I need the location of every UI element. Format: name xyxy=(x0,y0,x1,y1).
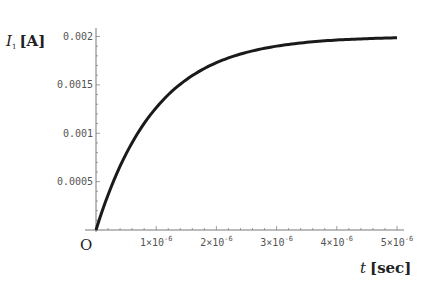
data-curve xyxy=(96,38,397,230)
y-tick-label: 0.0005 xyxy=(57,176,93,187)
x-tick-label: 1×10-6 xyxy=(140,235,173,248)
x-axis-title: t[sec] xyxy=(360,259,411,277)
y-axis-unit: [A] xyxy=(19,32,45,50)
y-axis-title: I1[A] xyxy=(5,32,45,51)
x-tick-label: 2×10-6 xyxy=(200,235,233,248)
axes xyxy=(85,28,404,232)
origin-label: O xyxy=(80,236,92,254)
current-vs-time-chart: 1×10-62×10-63×10-64×10-65×10-60.00050.00… xyxy=(0,0,442,287)
y-tick-label: 0.0015 xyxy=(57,79,93,90)
x-tick-label: 3×10-6 xyxy=(260,235,293,248)
ticks: 1×10-62×10-63×10-64×10-65×10-60.00050.00… xyxy=(57,31,413,248)
x-axis-var: t xyxy=(360,259,367,277)
y-tick-label: 0.001 xyxy=(63,128,93,139)
x-tick-label: 4×10-6 xyxy=(321,235,354,248)
x-tick-label: 5×10-6 xyxy=(381,235,414,248)
current-curve xyxy=(96,38,397,230)
y-tick-label: 0.002 xyxy=(63,31,93,42)
y-axis-subscript: 1 xyxy=(12,43,16,51)
x-axis-unit: [sec] xyxy=(370,259,411,277)
